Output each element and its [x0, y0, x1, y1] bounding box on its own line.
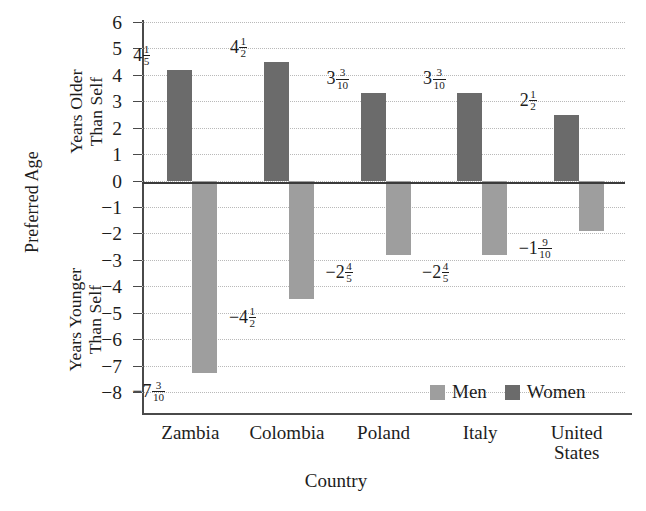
- y-tick: [133, 207, 142, 208]
- gridline: [142, 48, 625, 49]
- y-tick: [133, 366, 142, 367]
- bar-men-0[interactable]: [192, 181, 217, 374]
- y-tick: [133, 75, 142, 76]
- y-tick-label: 1: [76, 145, 122, 165]
- value-label-men-1: −412: [229, 306, 256, 330]
- gridline: [142, 75, 625, 76]
- bar-men-2[interactable]: [386, 181, 411, 255]
- value-label-women-2: 3310: [327, 67, 350, 91]
- y-tick-label: 4: [76, 66, 122, 86]
- y-tick-label: −7: [76, 357, 122, 377]
- y-tick: [133, 22, 142, 23]
- gridline: [142, 22, 625, 23]
- y-tick: [133, 313, 142, 314]
- y-tick-label: 6: [76, 13, 122, 33]
- y-tick: [133, 260, 142, 261]
- value-label-men-3: −245: [422, 261, 449, 285]
- y-tick-label: 2: [76, 119, 122, 139]
- value-label-men-0: −7310: [132, 380, 165, 404]
- y-tick-label: 5: [76, 39, 122, 59]
- y-tick: [133, 154, 142, 155]
- y-tick: [133, 181, 142, 182]
- legend-swatch-men-icon: [430, 385, 445, 400]
- bar-women-0[interactable]: [167, 70, 192, 181]
- y-tick: [133, 286, 142, 287]
- legend-label-women: Women: [527, 381, 586, 403]
- zero-baseline: [142, 182, 625, 184]
- legend-item-men[interactable]: Men: [430, 381, 487, 403]
- legend: Men Women: [430, 381, 603, 403]
- value-label-men-4: −1910: [519, 237, 552, 261]
- value-label-women-1: 412: [230, 36, 247, 60]
- y-tick-label: 0: [76, 172, 122, 192]
- y-tick-label: −2: [76, 224, 122, 244]
- bar-men-1[interactable]: [289, 181, 314, 300]
- bar-women-4[interactable]: [554, 115, 579, 181]
- legend-item-women[interactable]: Women: [505, 381, 586, 403]
- x-axis-title-text: Country: [305, 470, 367, 491]
- value-label-women-3: 3310: [423, 67, 446, 91]
- bar-women-2[interactable]: [361, 93, 386, 180]
- y-tick-label: −8: [76, 383, 122, 403]
- y-tick-label: −3: [76, 251, 122, 271]
- bar-chart: Preferred Age Years Older Than Self Year…: [0, 0, 646, 511]
- bar-women-3[interactable]: [457, 93, 482, 180]
- x-axis-title: Country: [0, 470, 646, 492]
- y-tick-label: 3: [76, 92, 122, 112]
- y-tick-label: −6: [76, 330, 122, 350]
- legend-label-men: Men: [452, 381, 487, 403]
- legend-swatch-women-icon: [505, 385, 520, 400]
- y-tick-label: −5: [76, 304, 122, 324]
- y-tick: [133, 128, 142, 129]
- y-tick-label: −4: [76, 277, 122, 297]
- value-label-women-4: 212: [520, 89, 537, 113]
- y-tick: [133, 101, 142, 102]
- y-tick: [133, 233, 142, 234]
- y-tick-label: −1: [76, 198, 122, 218]
- y-axis-title: Preferred Age: [22, 132, 42, 272]
- value-label-men-2: −245: [326, 261, 353, 285]
- y-tick: [133, 339, 142, 340]
- x-tick-label-4: United States: [517, 423, 637, 463]
- x-axis-line: [142, 413, 632, 415]
- bar-women-1[interactable]: [264, 62, 289, 181]
- bar-men-4[interactable]: [579, 181, 604, 231]
- bar-men-3[interactable]: [482, 181, 507, 255]
- value-label-women-0: 415: [133, 44, 150, 68]
- plot-area: 415−7310412−4123310−2453310−245212−1910: [142, 22, 625, 392]
